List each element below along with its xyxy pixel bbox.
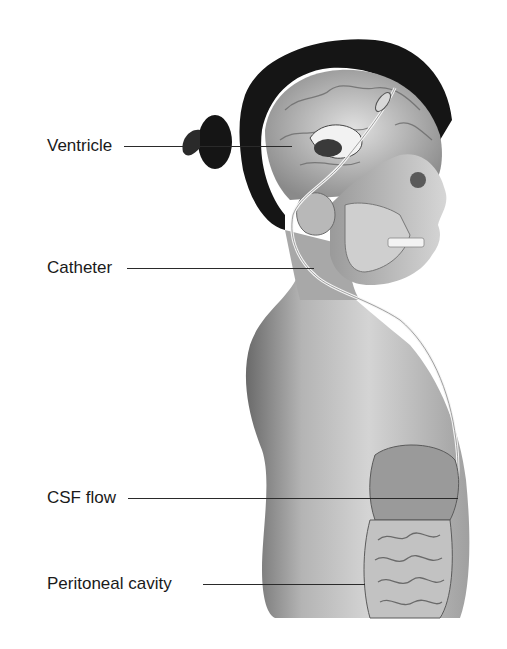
label-peritoneal-cavity: Peritoneal cavity xyxy=(47,574,172,594)
anatomical-illustration xyxy=(0,0,507,649)
label-ventricle: Ventricle xyxy=(47,136,112,156)
abdominal-organs xyxy=(364,445,459,618)
leader-line-csf-flow xyxy=(128,498,458,499)
label-catheter: Catheter xyxy=(47,258,112,278)
leader-line-ventricle xyxy=(124,146,292,147)
leader-line-catheter xyxy=(127,268,314,269)
label-csf-flow: CSF flow xyxy=(47,488,116,508)
leader-line-peritoneal-cavity xyxy=(203,584,365,585)
